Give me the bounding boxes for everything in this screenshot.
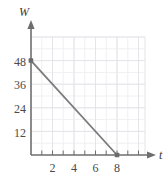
y-axis-label: W xyxy=(19,6,29,18)
y-tick-label-24: 24 xyxy=(2,103,26,115)
y-axis xyxy=(27,20,34,155)
x-axis-label: t xyxy=(159,149,162,161)
plot-area xyxy=(0,0,168,185)
y-tick-label-12: 12 xyxy=(2,127,26,139)
x-tick-label-2: 2 xyxy=(45,162,61,174)
graph-figure: 48 36 24 12 2 4 6 8 W t xyxy=(0,0,168,185)
x-tick-label-6: 6 xyxy=(88,162,104,174)
y-tick-label-48: 48 xyxy=(2,56,26,68)
y-tick-label-36: 36 xyxy=(2,79,26,91)
x-axis xyxy=(31,151,156,158)
x-tick-label-4: 4 xyxy=(66,162,82,174)
x-tick-label-8: 8 xyxy=(109,162,125,174)
